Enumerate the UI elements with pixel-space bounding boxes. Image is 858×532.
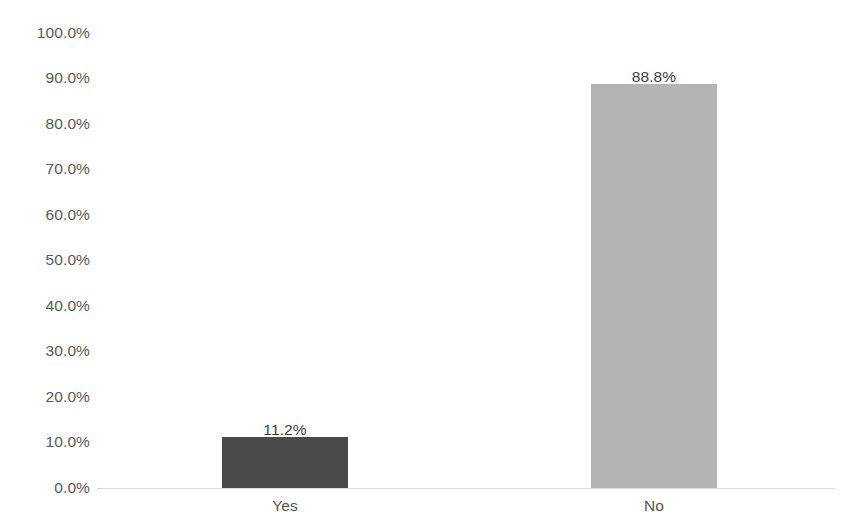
y-axis-tick-label: 100.0% bbox=[0, 25, 90, 41]
bar-fill bbox=[591, 84, 717, 488]
plot-area: 11.2% 88.8% bbox=[97, 33, 835, 488]
y-axis-tick-label: 90.0% bbox=[0, 70, 90, 86]
bar-value-label-yes: 11.2% bbox=[205, 422, 365, 438]
bar-chart: 100.0% 90.0% 80.0% 70.0% 60.0% 50.0% 40.… bbox=[0, 0, 858, 532]
bar-yes[interactable] bbox=[222, 437, 348, 488]
x-axis-category-label-no: No bbox=[574, 498, 734, 514]
y-axis-tick-label: 50.0% bbox=[0, 252, 90, 268]
y-axis-tick-label: 0.0% bbox=[0, 480, 90, 496]
y-axis-tick-label: 60.0% bbox=[0, 207, 90, 223]
y-axis-tick-label: 70.0% bbox=[0, 161, 90, 177]
x-axis-category-label-yes: Yes bbox=[205, 498, 365, 514]
x-axis-line bbox=[97, 488, 835, 489]
bar-fill bbox=[222, 437, 348, 488]
y-axis-tick-label: 20.0% bbox=[0, 389, 90, 405]
y-axis-tick-label: 10.0% bbox=[0, 434, 90, 450]
y-axis-tick-label: 80.0% bbox=[0, 116, 90, 132]
y-axis-tick-label: 40.0% bbox=[0, 298, 90, 314]
bar-no[interactable] bbox=[591, 84, 717, 488]
bar-value-label-no: 88.8% bbox=[574, 68, 734, 84]
y-axis-tick-label: 30.0% bbox=[0, 343, 90, 359]
